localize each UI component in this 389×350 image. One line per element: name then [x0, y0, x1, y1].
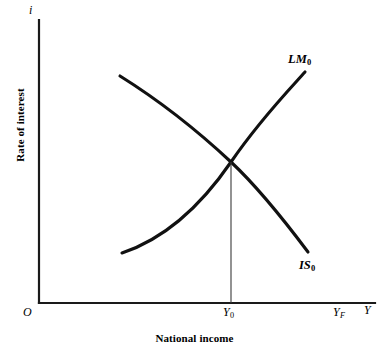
x-tick-y0-sub: 0 [230, 311, 234, 320]
lm-curve [122, 72, 305, 253]
y-axis-title-wrapper: Rate of interest [10, 65, 30, 185]
lm-curve-label: LM0 [288, 53, 311, 66]
y-axis-symbol: i [29, 4, 32, 16]
x-tick-yf: YF [333, 306, 345, 320]
y-axis-title: Rate of interest [14, 88, 26, 161]
x-axis-symbol: Y [364, 304, 371, 316]
lm-curve-label-sub: 0 [307, 57, 311, 67]
origin-label: O [23, 306, 32, 318]
is-curve-label-sub: 0 [311, 263, 315, 273]
x-axis-title-wrapper: National income [0, 328, 389, 346]
is-lm-plot-svg [0, 0, 389, 350]
is-curve-label-text: IS [299, 258, 311, 272]
x-tick-yf-sub: F [340, 311, 345, 320]
is-curve-label: IS0 [299, 259, 315, 272]
x-axis-title: National income [155, 332, 233, 344]
x-tick-yf-text: Y [333, 305, 340, 319]
is-lm-figure: i O LM0 IS0 Y0 YF Y Rate of interest Nat… [0, 0, 389, 350]
x-tick-y0: Y0 [223, 306, 234, 320]
lm-curve-label-text: LM [288, 52, 307, 66]
x-tick-y0-text: Y [223, 305, 230, 319]
